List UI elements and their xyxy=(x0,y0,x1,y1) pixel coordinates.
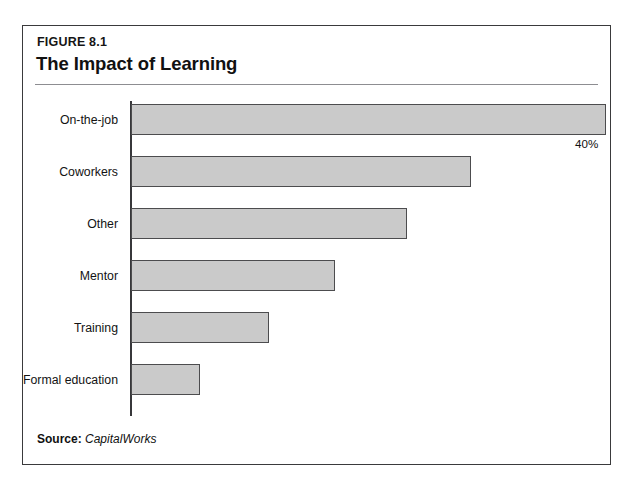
page-title: The Impact of Learning xyxy=(36,53,237,75)
bar-category-label: Formal education xyxy=(23,373,118,387)
bar-category-label: Other xyxy=(87,217,118,231)
bar-row: Coworkers xyxy=(23,156,612,187)
figure-number: FIGURE 8.1 xyxy=(37,35,107,49)
bar-row: Formal education xyxy=(23,364,612,395)
bar-training xyxy=(131,312,269,343)
source-label: Source: xyxy=(37,432,82,446)
bar-row: On-the-job 40% xyxy=(23,104,612,135)
source-note: Source: CapitalWorks xyxy=(37,432,156,446)
bar-row: Other xyxy=(23,208,612,239)
figure-frame: FIGURE 8.1 The Impact of Learning On-the… xyxy=(22,25,611,465)
bar-mentor xyxy=(131,260,335,291)
title-divider xyxy=(35,84,598,85)
bar-category-label: Mentor xyxy=(80,269,118,283)
bar-formal-education xyxy=(131,364,200,395)
bar-category-label: Coworkers xyxy=(59,165,118,179)
bar-row: Mentor xyxy=(23,260,612,291)
bar-on-the-job xyxy=(131,104,606,135)
bar-chart-plot-area: On-the-job 40% Coworkers Other Mentor Tr… xyxy=(23,96,612,426)
bar-row: Training xyxy=(23,312,612,343)
bar-other xyxy=(131,208,407,239)
bar-value-label: 40% xyxy=(575,137,598,150)
bar-category-label: Training xyxy=(74,321,118,335)
bar-coworkers xyxy=(131,156,471,187)
source-name: CapitalWorks xyxy=(85,432,156,446)
bar-category-label: On-the-job xyxy=(60,113,118,127)
